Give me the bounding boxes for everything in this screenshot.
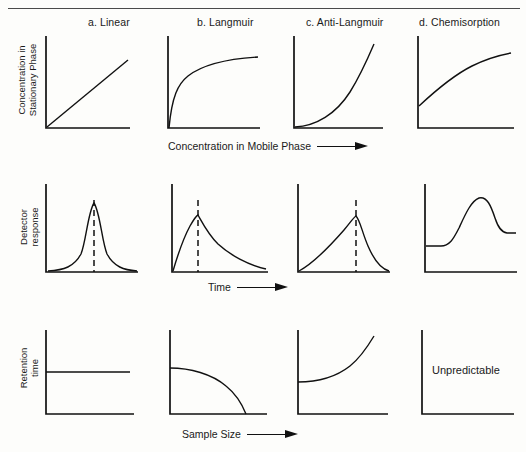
- plot-langmuir-isotherm: [162, 34, 262, 136]
- row3-xlabel-text: Sample Size: [182, 428, 241, 440]
- row1-xlabel-text: Concentration in Mobile Phase: [168, 140, 311, 152]
- plot-linear-peak: [40, 182, 140, 280]
- plot-anti-langmuir-retention: [292, 328, 390, 420]
- row2-ylabel-line1: Detector: [18, 209, 29, 245]
- panel-title-anti-langmuir: c. Anti-Langmuir: [306, 16, 383, 28]
- right-arrow-icon: [237, 283, 289, 292]
- row2-ylabel: Detector response: [18, 182, 40, 272]
- unpredictable-label: Unpredictable: [432, 364, 500, 376]
- row3-xlabel: Sample Size: [182, 428, 299, 440]
- top-rule: [8, 8, 520, 9]
- plot-anti-langmuir-peak-fronting: [292, 182, 392, 280]
- row1-ylabel-line1: Concentration in: [16, 45, 27, 114]
- row3-ylabel-line2: time: [29, 359, 40, 377]
- right-arrow-icon: [247, 430, 299, 439]
- row1-ylabel-line2: Stationary Phase: [27, 44, 38, 116]
- panel-title-linear: a. Linear: [88, 16, 130, 28]
- plot-chemisorption-isotherm: [412, 34, 516, 136]
- plot-linear-isotherm: [40, 34, 132, 136]
- row3-ylabel: Retention time: [18, 324, 40, 412]
- plot-langmuir-peak-tailing: [166, 182, 270, 280]
- plot-anti-langmuir-isotherm: [288, 34, 385, 136]
- row2-ylabel-line2: response: [29, 207, 40, 246]
- row1-ylabel: Concentration in Stationary Phase: [16, 25, 38, 135]
- plot-langmuir-retention: [164, 328, 269, 420]
- right-arrow-icon: [317, 142, 369, 151]
- plot-chemisorption-peak: [419, 182, 519, 280]
- row1-xlabel: Concentration in Mobile Phase: [168, 140, 369, 152]
- row3-ylabel-line1: Retention: [18, 348, 29, 389]
- row2-xlabel-text: Time: [208, 281, 231, 293]
- panel-title-chemisorption: d. Chemisorption: [419, 16, 500, 28]
- row2-xlabel: Time: [208, 281, 289, 293]
- plot-linear-retention: [40, 328, 136, 420]
- panel-title-langmuir: b. Langmuir: [197, 16, 254, 28]
